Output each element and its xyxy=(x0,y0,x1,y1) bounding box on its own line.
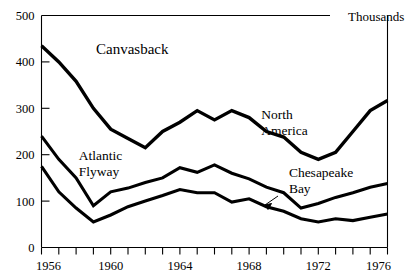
y-tick-label-500: 500 xyxy=(16,9,35,23)
y-tick-label-0: 0 xyxy=(28,241,34,255)
x-tick-label-1972: 1972 xyxy=(306,259,331,273)
chart-title-canvasback-line-1: Canvasback xyxy=(96,41,169,57)
x-tick-label-1964: 1964 xyxy=(167,259,193,273)
series-label-chesapeake-bay-line-2: Bay xyxy=(289,181,311,196)
chart-title-canvasback: Canvasback xyxy=(96,41,169,57)
chart-background xyxy=(0,0,415,279)
series-label-atlantic-flyway-line-2: Flyway xyxy=(79,164,120,179)
series-label-north-america-line-2: America xyxy=(261,123,307,138)
canvasback-population-chart: 0100200300400500 19561960196419681972197… xyxy=(0,0,415,279)
x-axis-ticks xyxy=(42,248,388,255)
x-tick-label-1976: 1976 xyxy=(366,259,391,273)
series-label-chesapeake-bay-line-1: Chesapeake xyxy=(289,165,353,180)
x-tick-label-1960: 1960 xyxy=(98,259,123,273)
y-tick-label-400: 400 xyxy=(16,55,35,69)
x-tick-label-1968: 1968 xyxy=(237,259,262,273)
y-tick-label-100: 100 xyxy=(16,195,35,209)
x-tick-label-1956: 1956 xyxy=(36,259,61,273)
series-label-north-america-line-1: North xyxy=(261,107,293,122)
y-tick-label-200: 200 xyxy=(16,148,35,162)
y-tick-label-300: 300 xyxy=(16,102,35,116)
units-label: Thousands xyxy=(348,9,404,24)
series-label-atlantic-flyway: AtlanticFlyway xyxy=(79,148,123,179)
series-label-atlantic-flyway-line-1: Atlantic xyxy=(79,148,123,163)
chart-canvas: 0100200300400500 19561960196419681972197… xyxy=(0,0,415,279)
